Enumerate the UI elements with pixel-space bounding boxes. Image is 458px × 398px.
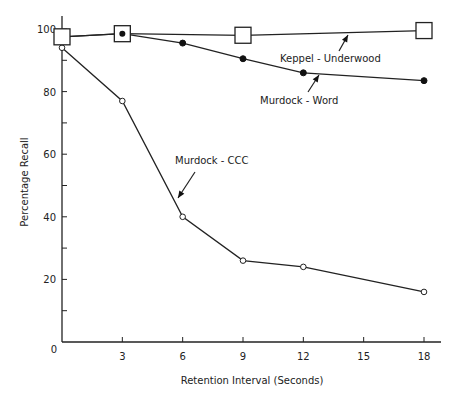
filled-circle-marker <box>300 70 306 76</box>
filled-circle-marker <box>240 56 246 62</box>
x-axis-title: Retention Interval (Seconds) <box>181 375 324 386</box>
y-tick-label: 80 <box>43 87 56 98</box>
y-tick-label: 20 <box>43 274 56 285</box>
x-tick-label: 15 <box>357 351 370 362</box>
annotation-murdock-ccc: Murdock - CCC <box>175 155 249 166</box>
line-chart: 020406080100369121518 Keppel - Underwood… <box>0 0 458 398</box>
square-marker <box>235 27 251 43</box>
annotation-murdock-word: Murdock - Word <box>260 95 338 106</box>
annotation-keppel-underwood: Keppel - Underwood <box>280 53 381 64</box>
open-circle-marker <box>120 98 126 104</box>
open-circle-marker <box>180 214 186 220</box>
open-circle-marker <box>421 289 427 295</box>
ccc-arrow-head <box>178 190 184 198</box>
open-circle-marker <box>240 258 246 264</box>
x-tick-label: 9 <box>240 351 246 362</box>
y-tick-label: 0 <box>51 344 57 355</box>
axes: 020406080100369121518 <box>37 16 441 362</box>
y-tick-label: 100 <box>37 24 56 35</box>
open-circle-marker <box>301 264 307 270</box>
filled-circle-marker <box>119 31 125 37</box>
x-tick-label: 18 <box>418 351 431 362</box>
word-arrow-head <box>313 75 319 83</box>
annotations: Keppel - UnderwoodMurdock - WordMurdock … <box>175 35 381 198</box>
y-axis-title: Percentage Recall <box>19 137 30 226</box>
filled-circle-marker <box>421 78 427 84</box>
filled-circle-marker <box>180 40 186 46</box>
y-tick-label: 60 <box>43 149 56 160</box>
x-tick-label: 12 <box>297 351 310 362</box>
square-marker <box>54 29 70 45</box>
x-tick-label: 6 <box>179 351 185 362</box>
open-circle-marker <box>59 45 65 51</box>
square-marker <box>416 23 432 39</box>
series-line <box>62 48 424 292</box>
x-tick-label: 3 <box>119 351 125 362</box>
y-tick-label: 40 <box>43 212 56 223</box>
